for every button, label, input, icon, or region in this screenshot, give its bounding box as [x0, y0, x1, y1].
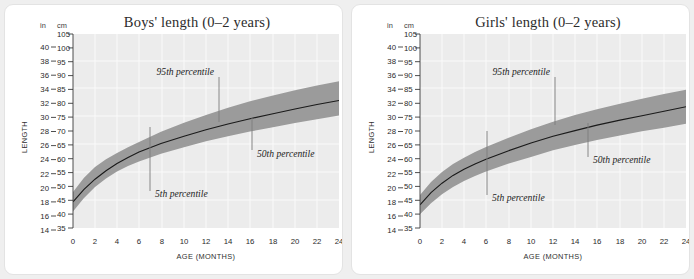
svg-text:38: 38: [40, 57, 49, 66]
svg-text:40: 40: [57, 210, 66, 219]
svg-text:16: 16: [593, 237, 602, 246]
svg-text:24: 24: [387, 155, 396, 164]
svg-text:40: 40: [387, 43, 396, 52]
boys-chart-svg: Boys' length (0–2 years) in cm: [5, 5, 343, 275]
svg-text:90: 90: [404, 71, 413, 80]
svg-text:4: 4: [462, 237, 467, 246]
svg-text:18: 18: [387, 198, 396, 207]
svg-text:36: 36: [40, 71, 49, 80]
svg-text:28: 28: [387, 127, 396, 136]
svg-text:32: 32: [40, 99, 49, 108]
chart-title: Boys' length (0–2 years): [124, 14, 270, 31]
growth-charts-page: Boys' length (0–2 years) in cm: [0, 0, 694, 279]
svg-text:40: 40: [40, 43, 49, 52]
svg-text:0: 0: [71, 237, 76, 246]
svg-text:18: 18: [269, 237, 278, 246]
svg-text:6: 6: [484, 237, 488, 246]
svg-text:28: 28: [40, 127, 49, 136]
svg-text:18: 18: [40, 198, 49, 207]
svg-text:20: 20: [40, 184, 49, 193]
annotation-95th-percentile: 95th percentile: [493, 66, 551, 77]
annotation-5th-percentile: 5th percentile: [492, 192, 545, 203]
svg-text:16: 16: [387, 212, 396, 221]
y-unit-in-label: in: [387, 21, 393, 30]
svg-text:22: 22: [313, 237, 322, 246]
svg-text:45: 45: [404, 196, 413, 205]
svg-text:100: 100: [57, 44, 71, 53]
svg-text:105: 105: [404, 30, 418, 39]
svg-text:24: 24: [682, 237, 690, 246]
y-unit-cm-label: cm: [57, 21, 67, 30]
svg-text:6: 6: [137, 237, 141, 246]
chart-title: Girls' length (0–2 years): [475, 14, 621, 31]
svg-text:70: 70: [404, 127, 413, 136]
svg-text:18: 18: [616, 237, 625, 246]
svg-text:26: 26: [40, 141, 49, 150]
svg-text:40: 40: [404, 210, 413, 219]
x-tick-labels: 0 2 4 6 8 10 12 14 16 18 20 22 24: [418, 237, 690, 246]
svg-text:90: 90: [57, 71, 66, 80]
svg-text:20: 20: [638, 237, 647, 246]
svg-text:75: 75: [57, 113, 66, 122]
svg-text:38: 38: [387, 57, 396, 66]
svg-text:10: 10: [527, 237, 536, 246]
svg-text:80: 80: [404, 99, 413, 108]
y-axis-ticks-cm: [68, 34, 73, 228]
svg-text:36: 36: [387, 71, 396, 80]
svg-text:85: 85: [404, 85, 413, 94]
svg-text:34: 34: [387, 85, 396, 94]
svg-text:32: 32: [387, 99, 396, 108]
svg-text:55: 55: [404, 168, 413, 177]
svg-text:12: 12: [202, 237, 211, 246]
y-axis-label: LENGTH: [367, 121, 376, 153]
svg-text:50: 50: [57, 182, 66, 191]
y-tick-labels-in: 40 38 36 34 32 30 28 26 24 22 20 18 16 1…: [40, 43, 49, 235]
girls-chart-svg: Girls' length (0–2 years) in cm: [352, 5, 690, 275]
y-axis-ticks-in: [398, 47, 403, 230]
svg-text:35: 35: [57, 224, 66, 233]
svg-text:22: 22: [387, 170, 396, 179]
svg-text:75: 75: [404, 113, 413, 122]
x-axis-label: AGE (MONTHS): [524, 252, 583, 261]
annotation-95th-percentile: 95th percentile: [157, 66, 215, 77]
svg-text:34: 34: [40, 85, 49, 94]
girls-length-chart-card: Girls' length (0–2 years) in cm: [351, 4, 690, 275]
svg-text:20: 20: [291, 237, 300, 246]
svg-text:60: 60: [404, 155, 413, 164]
x-tick-labels: 0 2 4 6 8 10 12 14 16 18 20 22 24: [71, 237, 343, 246]
svg-text:50: 50: [404, 182, 413, 191]
svg-text:24: 24: [40, 155, 49, 164]
svg-text:22: 22: [40, 170, 49, 179]
svg-text:8: 8: [160, 237, 164, 246]
svg-text:45: 45: [57, 196, 66, 205]
svg-text:14: 14: [224, 237, 233, 246]
svg-text:14: 14: [40, 226, 49, 235]
svg-text:26: 26: [387, 141, 396, 150]
svg-text:24: 24: [335, 237, 343, 246]
svg-text:30: 30: [40, 113, 49, 122]
y-axis-ticks-in: [51, 47, 56, 230]
y-unit-in-label: in: [40, 21, 46, 30]
svg-text:0: 0: [418, 237, 423, 246]
svg-text:95: 95: [57, 58, 66, 67]
svg-text:2: 2: [93, 237, 97, 246]
svg-text:55: 55: [57, 168, 66, 177]
svg-text:2: 2: [440, 237, 444, 246]
svg-text:105: 105: [57, 30, 71, 39]
y-axis-label: LENGTH: [20, 121, 29, 153]
x-axis-label: AGE (MONTHS): [177, 252, 236, 261]
svg-text:16: 16: [40, 212, 49, 221]
svg-text:60: 60: [57, 155, 66, 164]
svg-text:16: 16: [246, 237, 255, 246]
svg-text:20: 20: [387, 184, 396, 193]
svg-text:14: 14: [387, 226, 396, 235]
svg-text:10: 10: [180, 237, 189, 246]
boys-length-chart-card: Boys' length (0–2 years) in cm: [4, 4, 343, 275]
svg-text:95: 95: [404, 58, 413, 67]
svg-text:4: 4: [115, 237, 120, 246]
svg-text:85: 85: [57, 85, 66, 94]
svg-text:65: 65: [57, 141, 66, 150]
annotation-50th-percentile: 50th percentile: [257, 148, 315, 159]
svg-text:100: 100: [404, 44, 418, 53]
svg-text:14: 14: [571, 237, 580, 246]
